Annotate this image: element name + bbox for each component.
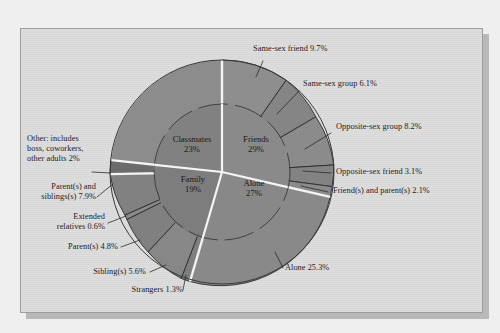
- outer-label-other-line3: other adults 2%: [27, 154, 80, 163]
- outer-label-opposite-sex-friend: Opposite-sex friend 3.1%: [336, 167, 422, 177]
- inner-label-classmates-name: Classmates: [173, 134, 212, 144]
- outer-label-other: Other: includes boss, coworkers, other a…: [27, 134, 99, 165]
- leader-siblings: [150, 265, 166, 272]
- inner-label-alone: Alone 27%: [231, 178, 277, 199]
- outer-label-extended-relatives-line1: Extended: [73, 212, 105, 221]
- leader-parents: [121, 240, 140, 247]
- nested-pie-chart: [0, 0, 500, 333]
- outer-label-other-line2: boss, coworkers,: [27, 144, 83, 153]
- inner-label-alone-value: 27%: [246, 188, 262, 198]
- inner-pie-group: [154, 104, 290, 241]
- outer-label-extended-relatives: Extended relatives 0.6%: [31, 212, 105, 232]
- inner-label-friends-name: Friends: [243, 134, 269, 144]
- outer-label-parents-and-siblings-line1: Parent(s) and: [51, 182, 96, 191]
- outer-label-same-sex-friend: Same-sex friend 9.7%: [253, 44, 328, 54]
- leader-parents-and-siblings: [97, 184, 113, 197]
- outer-label-strangers: Strangers 1.3%: [107, 285, 183, 295]
- outer-label-parents-and-siblings: Parent(s) and siblings(s) 7.9%: [18, 182, 96, 202]
- leader-other: [92, 172, 110, 173]
- outer-label-parents: Parent(s) 4.8%: [46, 242, 118, 252]
- inner-label-classmates-value: 23%: [184, 144, 200, 154]
- outer-label-friends-and-parents: Friend(s) and parent(s) 2.1%: [333, 186, 430, 196]
- outer-label-same-sex-group: Same-sex group 6.1%: [303, 79, 377, 89]
- inner-label-alone-name: Alone: [243, 178, 264, 188]
- outer-label-opposite-sex-group: Opposite-sex group 8.2%: [336, 122, 422, 132]
- outer-label-parents-and-siblings-line2: siblings(s) 7.9%: [41, 192, 96, 201]
- inner-label-family-value: 19%: [185, 184, 201, 194]
- inner-label-friends: Friends 29%: [231, 134, 281, 155]
- outer-label-other-line1: Other: includes: [27, 134, 79, 143]
- inner-label-classmates: Classmates 23%: [161, 134, 223, 155]
- outer-label-siblings: Sibling(s) 5.6%: [66, 267, 146, 277]
- outer-label-alone: Alone 25.3%: [285, 263, 329, 273]
- inner-label-family: Family 19%: [169, 174, 217, 195]
- outer-label-extended-relatives-line2: relatives 0.6%: [57, 222, 105, 231]
- inner-label-friends-value: 29%: [248, 144, 264, 154]
- leader-extended-relatives: [108, 216, 126, 223]
- inner-label-family-name: Family: [181, 174, 205, 184]
